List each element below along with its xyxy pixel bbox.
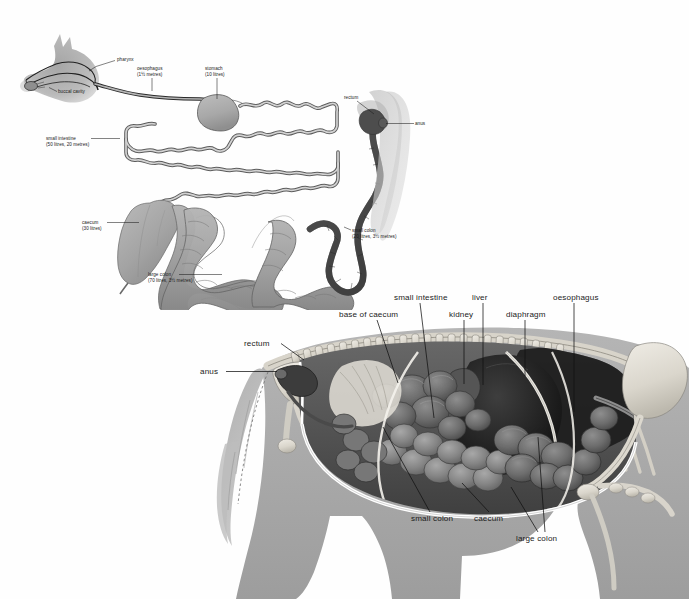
label-rectum: rectum (344, 95, 358, 100)
base-of-caecum-region (329, 360, 401, 426)
kidney-organ (448, 369, 480, 405)
cavity-outline (300, 362, 636, 517)
label-diaphragm: diaphragm (506, 310, 546, 319)
pelvis-bone (273, 362, 337, 453)
oesophagus-segment (596, 398, 658, 438)
shoulder-and-foreleg-bones (577, 343, 687, 588)
leader-line-small-colon (344, 227, 351, 230)
leader-line-base-of-caecum (377, 320, 398, 383)
caecum-region (377, 424, 514, 491)
large-colon-region (494, 406, 618, 491)
leader-line-caecum (462, 483, 489, 512)
rectum-and-anus-structures (275, 366, 352, 427)
label-rectum: rectum (244, 339, 270, 348)
rib-cage (420, 348, 654, 474)
bottom-figure-leaders (226, 303, 574, 532)
label-small-intestine: small intestine(50 litres, 20 metres) (46, 136, 90, 147)
label-caecum: caecum(30 litres) (82, 220, 102, 231)
label-pharynx: pharynx (117, 57, 134, 62)
label-oesophagus: oesophagus(1½ metres) (137, 66, 163, 77)
label-small-colon: small colon (411, 514, 453, 523)
small-colon-region (332, 414, 387, 482)
leader-line-rectum (281, 344, 304, 361)
abdominal-cavity-contents (290, 330, 658, 530)
tail-vertebrae-dots (238, 372, 268, 504)
spine-vertebrae (268, 334, 648, 372)
top-figure-digestive-schematic: pharynxbuccal cavityoesophagus(1½ metres… (0, 0, 689, 310)
diagram-page: pharynxbuccal cavityoesophagus(1½ metres… (0, 0, 689, 599)
small-colon-tube (310, 122, 380, 292)
label-large-colon: large colon (516, 534, 557, 543)
stomach-organ (197, 95, 246, 131)
bottom-figure-labels: anusrectumbase of caecumsmall intestinek… (200, 293, 599, 543)
small-intestine-coils (372, 371, 491, 440)
label-base-of-caecum: base of caecum (339, 310, 398, 319)
label-kidney: kidney (449, 310, 474, 319)
rectum-region (277, 366, 318, 397)
oesophagus-tube (95, 84, 212, 101)
label-stomach: stomach(10 litres) (205, 66, 225, 77)
label-anus: anus (415, 121, 426, 126)
anus-region (275, 369, 287, 379)
label-caecum: caecum (474, 514, 503, 523)
diaphragm-line (506, 352, 557, 484)
anus-opening (379, 118, 388, 128)
leader-line-small-intestine (420, 303, 434, 418)
leader-line-small-colon (383, 427, 430, 512)
liver-organ (454, 355, 562, 475)
label-buccal-cavity: buccal cavity (58, 89, 86, 94)
rib-cage-shading (420, 348, 626, 470)
leader-line-large-colon (511, 437, 545, 532)
horse-body-silhouette (217, 327, 689, 599)
label-anus: anus (200, 367, 218, 376)
